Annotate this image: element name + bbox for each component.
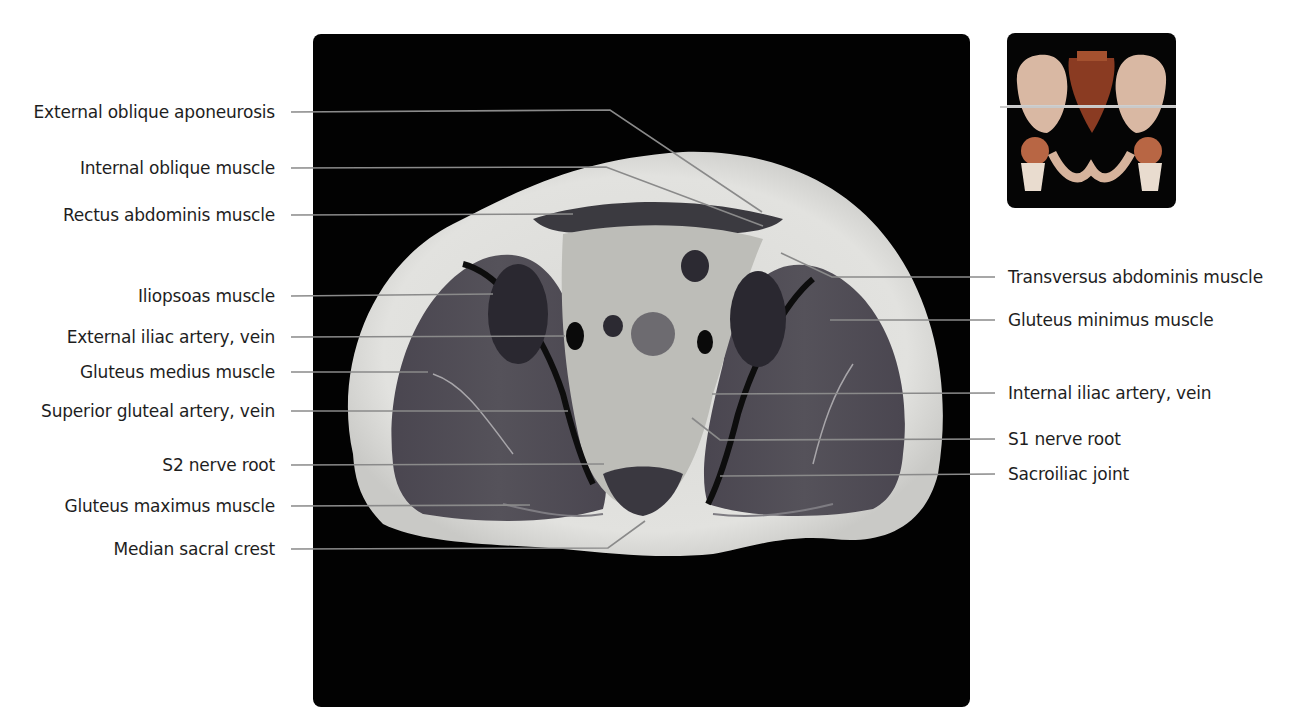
label-iliopsoas-muscle: Iliopsoas muscle <box>138 286 275 306</box>
label-median-sacral-crest: Median sacral crest <box>113 539 275 559</box>
pelvis-3d-thumbnail <box>1007 33 1176 208</box>
label-s1-nerve-root: S1 nerve root <box>1008 429 1121 449</box>
label-sacroiliac-joint: Sacroiliac joint <box>1008 464 1129 484</box>
label-internal-oblique-muscle: Internal oblique muscle <box>80 158 275 178</box>
label-rectus-abdominis-muscle: Rectus abdominis muscle <box>63 205 275 225</box>
label-gluteus-maximus-muscle: Gluteus maximus muscle <box>64 496 275 516</box>
mri-slice-illustration <box>313 34 970 707</box>
label-transversus-abdominis-muscle: Transversus abdominis muscle <box>1008 267 1263 287</box>
slice-level-line-extension <box>1000 106 1176 108</box>
label-external-oblique-aponeurosis: External oblique aponeurosis <box>34 102 275 122</box>
label-gluteus-medius-muscle: Gluteus medius muscle <box>80 362 275 382</box>
label-s2-nerve-root: S2 nerve root <box>162 455 275 475</box>
mri-axial-image <box>313 34 970 707</box>
label-gluteus-minimus-muscle: Gluteus minimus muscle <box>1008 310 1214 330</box>
label-external-iliac-artery-vein: External iliac artery, vein <box>67 327 275 347</box>
pelvis-rendering <box>1007 33 1176 208</box>
label-superior-gluteal-artery-vein: Superior gluteal artery, vein <box>41 401 275 421</box>
label-internal-iliac-artery-vein: Internal iliac artery, vein <box>1008 383 1211 403</box>
